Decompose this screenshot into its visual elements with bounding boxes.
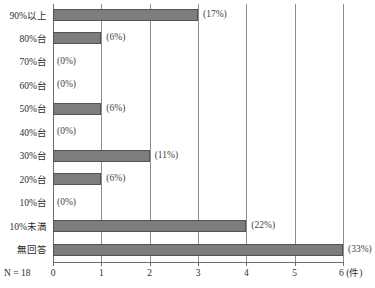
bar-row: (17%) bbox=[53, 4, 373, 27]
bar-value-label: (6%) bbox=[106, 30, 125, 44]
bar-value-label: (22%) bbox=[251, 218, 275, 232]
bar bbox=[53, 150, 150, 162]
category-label: 40%台 bbox=[0, 127, 47, 139]
bar bbox=[53, 244, 343, 256]
x-tick bbox=[101, 262, 102, 266]
bar bbox=[53, 173, 101, 185]
sample-size-label: N = 18 bbox=[4, 267, 30, 279]
bar bbox=[53, 9, 198, 21]
category-label: 無回答 bbox=[0, 244, 47, 256]
x-tick bbox=[150, 262, 151, 266]
bar-value-label: (0%) bbox=[57, 77, 76, 91]
category-label: 60%台 bbox=[0, 80, 47, 92]
x-tick-label: 5 bbox=[292, 267, 297, 279]
category-label: 10%台 bbox=[0, 197, 47, 209]
x-axis-unit-label: 6 (件) bbox=[339, 267, 362, 279]
x-tick-label: 1 bbox=[99, 267, 104, 279]
plot-area: (17%) (6%) (0%) (0%) (6%) (0%) (11%) (6 bbox=[53, 4, 343, 262]
bar-value-label: (0%) bbox=[57, 195, 76, 209]
x-tick bbox=[343, 262, 344, 266]
x-tick-label: 4 bbox=[244, 267, 249, 279]
bar-value-label: (0%) bbox=[57, 54, 76, 68]
bar bbox=[53, 220, 246, 232]
x-tick bbox=[198, 262, 199, 266]
category-label: 90%以上 bbox=[0, 10, 47, 22]
bar-value-label: (6%) bbox=[106, 171, 125, 185]
bar-value-label: (11%) bbox=[155, 148, 178, 162]
bar-value-label: (17%) bbox=[203, 7, 227, 21]
category-label: 30%台 bbox=[0, 150, 47, 162]
bar-row: (0%) bbox=[53, 74, 373, 97]
x-tick-label: 3 bbox=[196, 267, 201, 279]
bar-row: (11%) bbox=[53, 145, 373, 168]
x-tick bbox=[295, 262, 296, 266]
bar-row: (22%) bbox=[53, 215, 373, 238]
x-tick bbox=[53, 262, 54, 266]
category-label: 50%台 bbox=[0, 103, 47, 115]
bar-value-label: (33%) bbox=[348, 242, 372, 256]
bar-row: (0%) bbox=[53, 192, 373, 215]
bar-chart: (17%) (6%) (0%) (0%) (6%) (0%) (11%) (6 bbox=[0, 0, 375, 288]
bar-row: (0%) bbox=[53, 121, 373, 144]
bar-row: (6%) bbox=[53, 98, 373, 121]
bar-value-label: (0%) bbox=[57, 124, 76, 138]
x-tick-label: 2 bbox=[147, 267, 152, 279]
category-label: 80%台 bbox=[0, 33, 47, 45]
category-label: 20%台 bbox=[0, 174, 47, 186]
bar-value-label: (6%) bbox=[106, 101, 125, 115]
bar bbox=[53, 32, 101, 44]
x-tick bbox=[246, 262, 247, 266]
bar-row: (33%) bbox=[53, 239, 373, 262]
x-tick-label: 0 bbox=[51, 267, 56, 279]
bar-row: (0%) bbox=[53, 51, 373, 74]
bar-row: (6%) bbox=[53, 27, 373, 50]
bar-row: (6%) bbox=[53, 168, 373, 191]
bar bbox=[53, 103, 101, 115]
category-label: 10%未満 bbox=[0, 221, 47, 233]
category-label: 70%台 bbox=[0, 56, 47, 68]
